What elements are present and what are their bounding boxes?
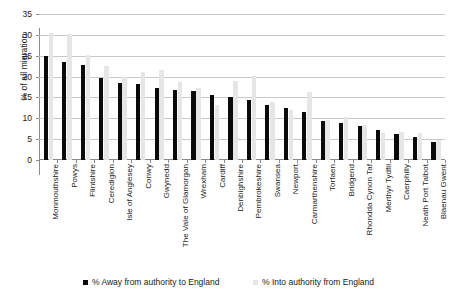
x-axis-category-label: Neath Port Talbot [421,164,430,227]
y-axis-tick-label: 15 [23,92,32,102]
legend-swatch-away-icon [83,280,88,285]
x-axis-tick-mark [353,160,354,163]
bar-group [316,14,334,160]
x-axis-tick-mark [260,160,261,163]
bar-away-from-authority [228,97,232,160]
x-axis-tick-mark [224,160,225,163]
bar-away-from-authority [81,65,85,160]
x-axis-category-label: Monmouthshire [51,164,60,220]
plot-area [39,14,445,160]
x-axis-tick-mark [76,160,77,163]
bar-into-authority [436,140,441,160]
chart-legend: % Away from authority to England % Into … [0,277,452,295]
bar-group [76,14,94,160]
x-axis-tick-mark [94,160,95,163]
bar-away-from-authority [339,123,343,160]
x-axis-tick-mark [187,160,188,163]
bar-away-from-authority [62,62,66,160]
x-axis-category-label: Bridgend [347,164,356,196]
bar-away-from-authority [413,137,417,160]
x-axis-tick-mark [408,160,409,163]
bar-into-authority [289,110,294,160]
y-axis-tick-label: 25 [23,51,32,61]
y-axis-tick-label: 5 [27,134,32,144]
bar-away-from-authority [376,130,380,160]
x-axis-category-label: Carmarthenshire [310,164,319,224]
bar-away-from-authority [136,84,140,160]
bar-away-from-authority [431,142,435,160]
bar-group [39,14,57,160]
bar-into-authority [159,70,164,160]
bar-away-from-authority [44,56,48,160]
bar-into-authority [252,76,257,160]
bars-layer [39,14,445,160]
bar-away-from-authority [265,105,269,160]
x-axis-category-labels: MonmouthshirePowysFlintshireCeredigionIs… [39,164,445,264]
bar-group [260,14,278,160]
x-axis-category-label: Cardiff [218,164,227,188]
bar-away-from-authority [321,121,325,160]
bar-group [353,14,371,160]
x-axis-tick-mark [168,160,169,163]
bar-into-authority [344,117,349,160]
x-axis-tick-mark [316,160,317,163]
bar-group [150,14,168,160]
x-axis-category-label: Caerphilly [402,164,411,200]
bar-away-from-authority [394,134,398,160]
x-axis-category-label: Torfaen [328,164,337,191]
bar-away-from-authority [118,83,122,160]
y-axis-tick-label: 30 [23,30,32,40]
bar-away-from-authority [210,95,214,160]
bar-away-from-authority [173,90,177,160]
x-axis-category-label: Flintshire [88,164,97,197]
bar-group [224,14,242,160]
bar-into-authority [325,120,330,160]
bar-into-authority [418,133,423,160]
x-axis-category-label: Ceredigion [107,164,116,203]
bar-away-from-authority [358,126,362,160]
x-axis-tick-mark [297,160,298,163]
x-axis-category-label: Pembrokeshire [254,164,263,218]
x-axis-category-label: Wrexham [199,164,208,198]
y-axis-tick-label: 20 [23,72,32,82]
x-axis-category-label: Powys [70,164,79,188]
y-axis-tick-label: 10 [23,113,32,123]
bar-group [131,14,149,160]
x-axis-tick-mark [57,160,58,163]
x-axis-category-label: Conwy [144,164,153,189]
bar-into-authority [381,133,386,160]
bar-into-authority [122,77,127,160]
x-axis-category-label: Merthyr Tydfil [384,164,393,213]
x-axis-tick-mark [242,160,243,163]
bar-into-authority [86,55,91,160]
bar-group [390,14,408,160]
legend-item-into-authority: % Into authority from England [253,277,374,287]
x-axis-tick-mark [371,160,372,163]
x-axis-category-label: Rhondda Cynon Taf [365,164,374,235]
bar-into-authority [270,102,275,160]
x-axis-tick-mark [39,160,40,163]
bar-group [94,14,112,160]
x-axis-category-label: Gwynedd [162,164,171,198]
legend-item-away-from-authority: % Away from authority to England [83,277,219,287]
bar-group [57,14,75,160]
bar-group [168,14,186,160]
y-axis-tick-label: 35 [23,9,32,19]
bar-group [371,14,389,160]
legend-label-into: % Into authority from England [262,277,374,287]
bar-into-authority [141,72,146,160]
x-axis-category-label: The Vale of Glamorgan [181,164,190,247]
bar-into-authority [49,33,54,160]
bar-group [113,14,131,160]
x-axis-category-label: Swansea [273,164,282,197]
bar-group [297,14,315,160]
bar-group [187,14,205,160]
x-axis-tick-mark [113,160,114,163]
bar-away-from-authority [284,108,288,160]
x-axis-tick-mark [279,160,280,163]
bar-into-authority [362,125,367,160]
y-axis-tick-label: 0 [27,155,32,165]
bar-group [408,14,426,160]
y-axis-tick-labels: 05101520253035 [0,0,36,301]
bar-away-from-authority [302,112,306,160]
